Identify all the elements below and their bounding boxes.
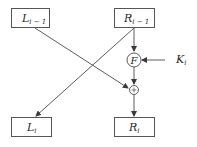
key-sub: i xyxy=(184,59,186,67)
R-next-base: R xyxy=(128,121,137,134)
F-label: F xyxy=(130,55,139,66)
function-F-node: F xyxy=(127,53,141,67)
L-prev-base: L xyxy=(21,12,29,25)
svg-text:Ki: Ki xyxy=(175,53,186,67)
R-next-sub: i xyxy=(137,127,139,135)
R-prev-base: R xyxy=(123,12,132,25)
box-L-prev: Li − 1 xyxy=(12,9,50,28)
L-next-base: L xyxy=(26,121,34,134)
edge-Rprev-Lnext xyxy=(36,28,134,116)
box-L-next: Li xyxy=(12,118,52,137)
key-label: Ki xyxy=(175,53,186,67)
edges xyxy=(35,28,165,116)
box-R-prev: Ri − 1 xyxy=(115,9,155,28)
edge-Lprev-xor xyxy=(35,28,128,88)
feistel-diagram: Li − 1 Ri − 1 Li Ri F xyxy=(0,0,197,147)
box-R-next: Ri xyxy=(115,118,155,137)
xor-node xyxy=(130,86,139,95)
R-prev-sub: i − 1 xyxy=(132,18,149,26)
L-next-sub: i xyxy=(34,127,36,135)
L-prev-sub: i − 1 xyxy=(29,18,46,26)
